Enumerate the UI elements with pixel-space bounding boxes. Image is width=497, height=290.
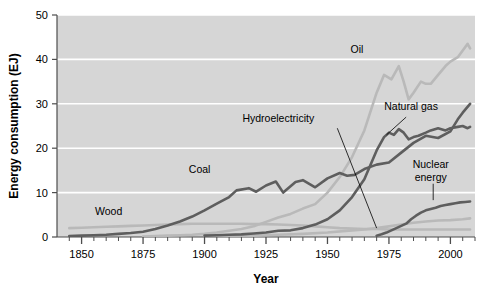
series-label-hydroelectricity: Hydroelectricity — [242, 112, 315, 124]
x-tick-label: 1850 — [69, 248, 93, 260]
y-tick-label: 10 — [36, 187, 48, 199]
energy-consumption-chart: 01020304050 1850187519001925195019752000… — [0, 0, 497, 290]
x-axis-title: Year — [253, 272, 279, 286]
x-tick-label: 1975 — [377, 248, 401, 260]
x-tick-label: 2000 — [438, 248, 462, 260]
x-tick-label: 1900 — [192, 248, 216, 260]
x-tick-label: 1875 — [131, 248, 155, 260]
y-tick-label: 40 — [36, 53, 48, 65]
series-label-natural-gas: Natural gas — [384, 100, 438, 112]
y-axis-title: Energy consumption (EJ) — [7, 53, 21, 198]
plot-area — [57, 15, 475, 237]
series-label-wood: Wood — [95, 205, 122, 217]
series-label-nuclear-energy-line2: energy — [415, 171, 448, 183]
chart-canvas: 01020304050 1850187519001925195019752000… — [0, 0, 497, 290]
series-label-nuclear-energy-line1: Nuclear — [413, 158, 450, 170]
y-tick-label: 20 — [36, 142, 48, 154]
x-tick-label: 1950 — [315, 248, 339, 260]
series-label-coal: Coal — [189, 163, 211, 175]
x-tick-label: 1925 — [254, 248, 278, 260]
y-tick-label: 0 — [42, 231, 48, 243]
y-tick-label: 30 — [36, 98, 48, 110]
y-tick-label: 50 — [36, 9, 48, 21]
series-label-oil: Oil — [351, 43, 364, 55]
